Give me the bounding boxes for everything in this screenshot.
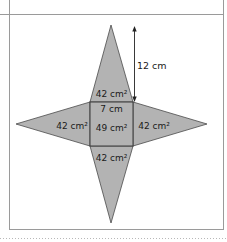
right-face-area-label: 42 cm² [138,121,170,131]
base-side-label: 7 cm [100,104,122,114]
bottom-face-area-label: 42 cm² [96,153,128,163]
base-area-label: 49 cm² [96,123,128,133]
top-face-area-label: 42 cm² [96,89,128,99]
arrow-head-up-icon [132,26,136,32]
height-label: 12 cm [137,60,167,71]
left-face-area-label: 42 cm² [56,121,88,131]
net-diagram-svg: 12 cm 42 cm² 7 cm 49 cm² 42 cm² 42 cm² 4… [0,0,227,242]
pyramid-net-figure: 12 cm 42 cm² 7 cm 49 cm² 42 cm² 42 cm² 4… [0,0,227,242]
